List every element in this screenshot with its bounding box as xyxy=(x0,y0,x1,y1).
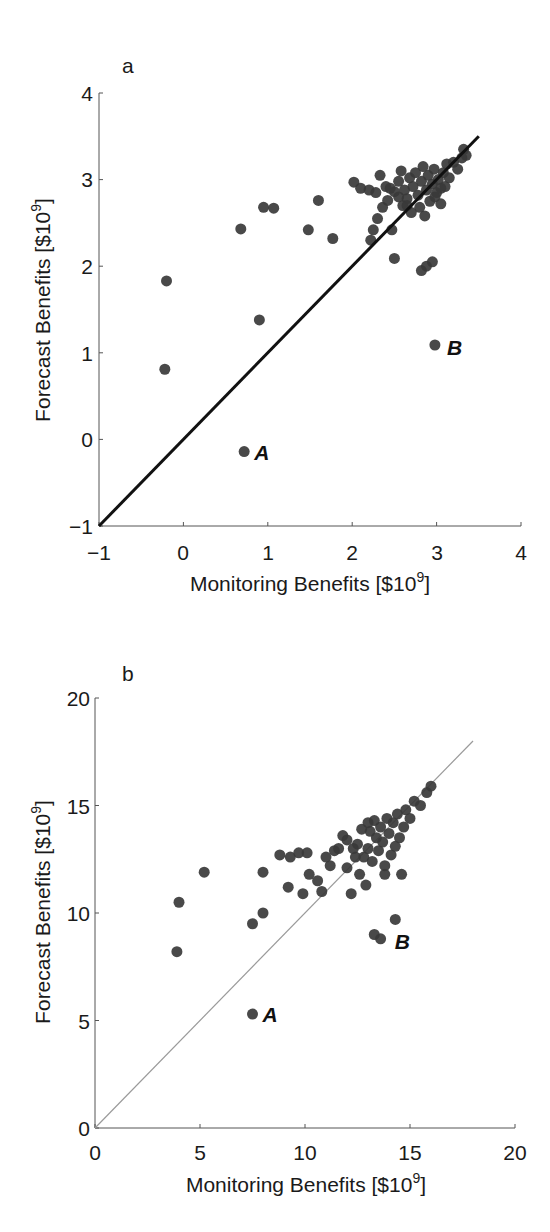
x-tick-label: 3 xyxy=(431,541,443,564)
one-to-one-line-a xyxy=(99,136,479,526)
x-tick-label: 2 xyxy=(346,541,358,564)
data-point xyxy=(174,897,185,908)
data-point xyxy=(247,1009,258,1020)
data-point xyxy=(302,847,313,858)
data-point xyxy=(327,233,338,244)
data-point xyxy=(312,875,323,886)
annotation-b-point-B: B xyxy=(395,930,410,953)
y-tick-label: 20 xyxy=(67,687,90,710)
data-point xyxy=(354,869,365,880)
data-point xyxy=(385,183,396,194)
data-point xyxy=(333,843,344,854)
data-point xyxy=(316,886,327,897)
x-tick-label: 4 xyxy=(515,541,527,564)
data-point xyxy=(390,914,401,925)
x-axis-label-b: Monitoring Benefits [$109] xyxy=(186,1170,426,1196)
y-tick-label: −1 xyxy=(69,515,93,538)
x-tick-label: 15 xyxy=(398,1141,421,1164)
x-tick-label: 0 xyxy=(89,1141,101,1164)
data-point xyxy=(363,843,374,854)
data-point xyxy=(375,170,386,181)
y-tick-label: 15 xyxy=(67,795,90,818)
annotation-a-point-A: A xyxy=(253,441,269,464)
data-point xyxy=(254,314,265,325)
data-point xyxy=(370,187,381,198)
y-axis-label-b: Forecast Benefits [$109] xyxy=(28,800,54,1024)
data-point xyxy=(235,223,246,234)
x-tick-label: 5 xyxy=(194,1141,206,1164)
y-tick-label: 0 xyxy=(81,428,93,451)
data-points-b xyxy=(171,781,436,1020)
y-tick-label: 3 xyxy=(81,168,93,191)
panel-a-scatter: a −1 0 1 2 3 4 −1 0 1 2 3 4 Monitoring B… xyxy=(28,54,527,595)
data-point xyxy=(360,880,371,891)
x-axis-label-a: Monitoring Benefits [$109] xyxy=(190,569,430,595)
data-point xyxy=(363,817,374,828)
data-point xyxy=(393,191,404,202)
data-point xyxy=(367,856,378,867)
data-point xyxy=(405,813,416,824)
data-point xyxy=(161,275,172,286)
data-point xyxy=(379,860,390,871)
data-point xyxy=(297,888,308,899)
data-point xyxy=(372,213,383,224)
data-point xyxy=(429,340,440,351)
data-point xyxy=(396,869,407,880)
x-tick-label: 10 xyxy=(293,1141,316,1164)
annotation-b-point-A: A xyxy=(262,1003,278,1026)
data-point xyxy=(258,867,269,878)
y-tick-label: 4 xyxy=(81,82,93,105)
data-point xyxy=(268,203,279,214)
y-tick-label: 0 xyxy=(78,1117,90,1140)
data-point xyxy=(199,867,210,878)
data-point xyxy=(452,164,463,175)
x-tick-label: −1 xyxy=(87,541,111,564)
x-tick-label: 1 xyxy=(262,541,274,564)
data-point xyxy=(396,165,407,176)
data-point xyxy=(321,852,332,863)
data-point xyxy=(258,202,269,213)
data-point xyxy=(303,224,314,235)
y-tick-label: 1 xyxy=(81,342,93,365)
data-point xyxy=(368,224,379,235)
data-point xyxy=(444,172,455,183)
data-point xyxy=(415,800,426,811)
y-tick-label: 10 xyxy=(67,902,90,925)
figure: a −1 0 1 2 3 4 −1 0 1 2 3 4 Monitoring B… xyxy=(0,0,550,1232)
data-point xyxy=(435,183,446,194)
data-point xyxy=(313,195,324,206)
data-point xyxy=(283,882,294,893)
tick-labels-b: 0 5 10 15 20 0 5 10 15 20 xyxy=(67,687,527,1164)
data-point xyxy=(346,888,357,899)
data-point xyxy=(419,210,430,221)
annotation-a-point-B: B xyxy=(447,336,462,359)
y-axis-label-a: Forecast Benefits [$109] xyxy=(28,198,54,422)
data-point xyxy=(394,832,405,843)
panel-label-b: b xyxy=(122,662,134,685)
data-point xyxy=(342,862,353,873)
data-point xyxy=(258,908,269,919)
data-point xyxy=(427,256,438,267)
y-tick-label: 5 xyxy=(78,1010,90,1033)
panel-b-scatter: b 0 5 10 15 20 0 5 10 15 20 Monitoring B… xyxy=(28,662,527,1196)
data-point xyxy=(384,828,395,839)
data-point xyxy=(426,781,437,792)
data-point xyxy=(382,195,393,206)
data-point xyxy=(239,446,250,457)
data-point xyxy=(247,918,258,929)
data-point xyxy=(389,253,400,264)
data-point xyxy=(171,946,182,957)
panel-label-a: a xyxy=(122,54,134,77)
x-tick-label: 0 xyxy=(177,541,189,564)
y-tick-label: 2 xyxy=(81,255,93,278)
data-point xyxy=(348,843,359,854)
x-tick-label: 20 xyxy=(503,1141,526,1164)
data-point xyxy=(159,364,170,375)
data-point xyxy=(375,933,386,944)
data-point xyxy=(274,849,285,860)
